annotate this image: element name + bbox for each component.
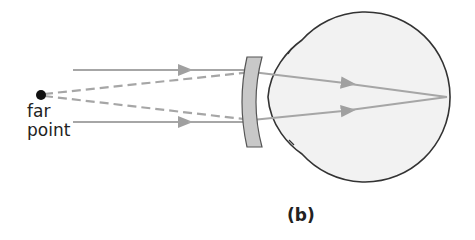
far-point-dot <box>36 90 46 100</box>
myopia-correction-diagram <box>0 0 475 240</box>
far-point-label: far point <box>27 102 70 140</box>
figure-caption: (b) <box>287 205 315 225</box>
virtual-ray-top <box>44 72 252 94</box>
eyeball <box>268 12 450 182</box>
virtual-ray-bottom <box>44 96 252 120</box>
eyeball-outline <box>268 12 450 182</box>
far-point-label-line1: far <box>27 102 70 121</box>
concave-lens <box>242 57 262 147</box>
far-point-label-line2: point <box>27 121 70 140</box>
virtual-rays <box>44 72 252 120</box>
incoming-rays <box>73 70 252 122</box>
